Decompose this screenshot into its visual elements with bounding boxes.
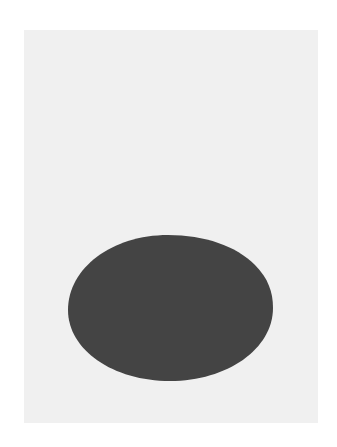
- artwork-canvas: [0, 0, 337, 447]
- dark-oval-shape: [68, 235, 273, 381]
- artwork-stage: [0, 0, 337, 447]
